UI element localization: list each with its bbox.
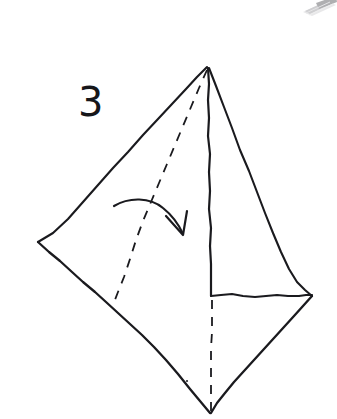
horizontal-edge	[211, 294, 312, 297]
fold-direction-arrow	[114, 199, 187, 235]
lower-right-edge	[211, 296, 312, 413]
lower-left-edge	[38, 242, 210, 413]
vertical-fold-line	[211, 300, 212, 413]
diagonal-fold-line	[113, 70, 207, 305]
upper-right-edge	[209, 68, 312, 296]
centre-crease-line	[208, 68, 211, 296]
upper-left-edge	[38, 67, 207, 242]
step-number-label: 3	[78, 82, 103, 122]
drawing-canvas: 3	[0, 0, 337, 419]
ink-speck	[186, 380, 188, 382]
scanner-edge-artifact	[303, 0, 337, 16]
fold-arrow-curve	[114, 199, 183, 234]
origami-step-diagram	[0, 0, 337, 419]
